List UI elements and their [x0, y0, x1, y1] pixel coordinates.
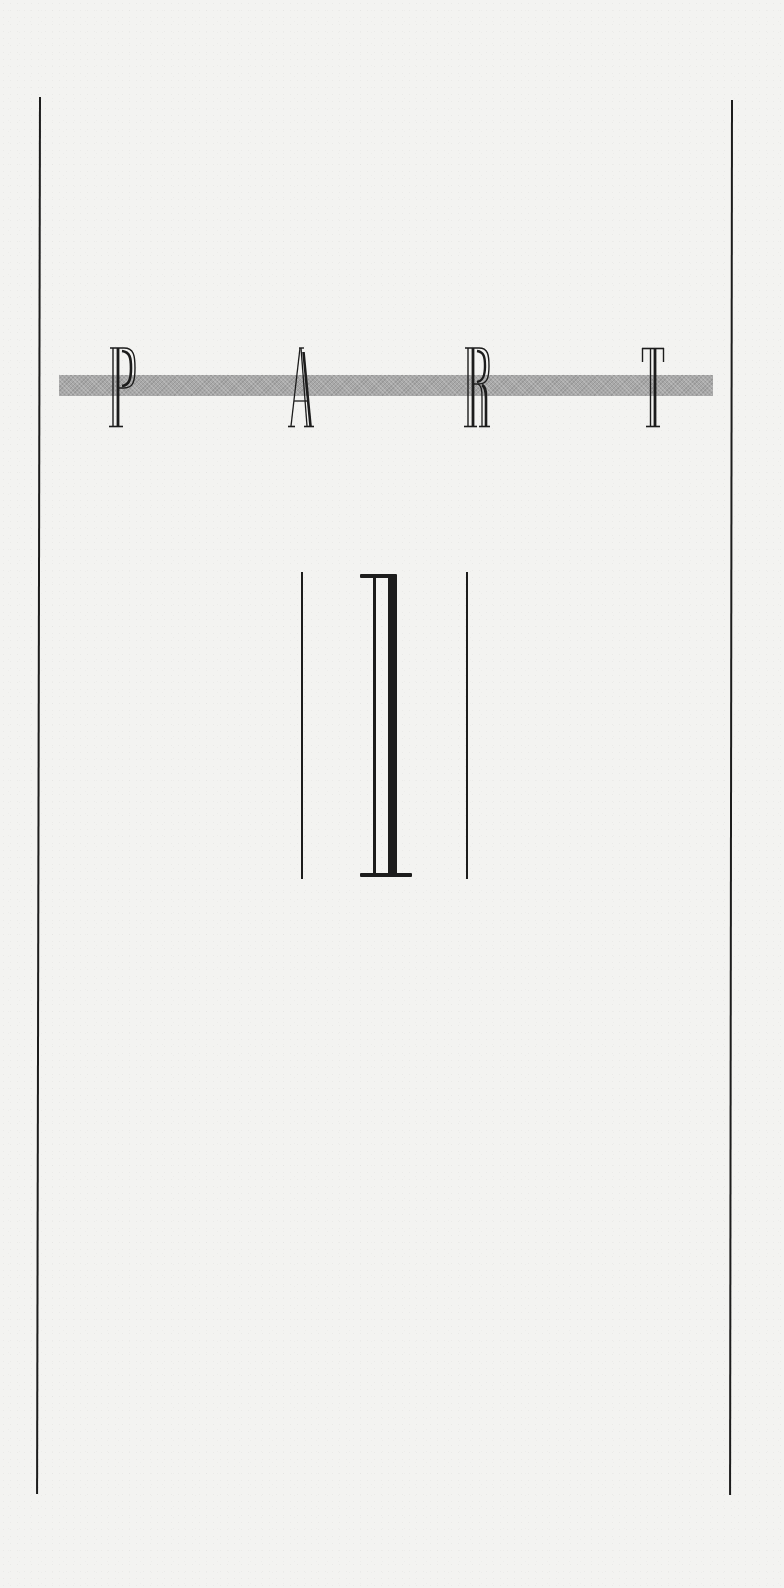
- numeral-right-rule: [466, 572, 468, 879]
- letter-r-glyph: [463, 346, 491, 428]
- letter-t-glyph: [639, 346, 667, 428]
- heading-letter-t: T: [639, 346, 667, 428]
- letter-a-glyph: [287, 346, 315, 428]
- heading-letter-a: A: [287, 346, 315, 428]
- letter-p-glyph: [108, 346, 136, 428]
- gray-heading-band: [59, 375, 713, 396]
- left-border-rule: [36, 97, 41, 1494]
- part-numeral: I: [358, 574, 414, 878]
- numeral-left-rule: [301, 572, 303, 879]
- right-border-rule: [729, 100, 733, 1495]
- roman-numeral-one-glyph: [358, 574, 414, 878]
- heading-letter-p: P: [108, 346, 136, 428]
- heading-letter-r: R: [463, 346, 491, 428]
